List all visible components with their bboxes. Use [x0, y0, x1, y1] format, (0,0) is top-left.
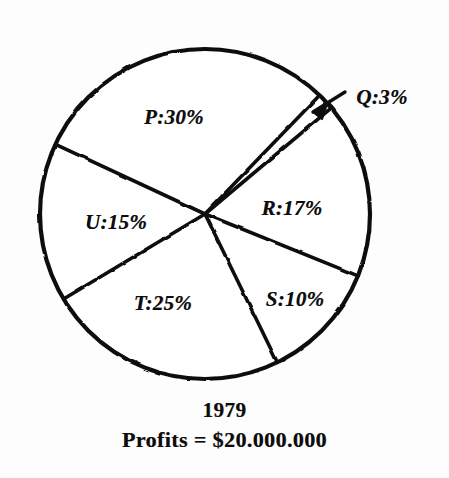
slice-label-r: R:17% [262, 196, 323, 221]
slice-label-t: T:25% [134, 291, 192, 316]
slice-label-u: U:15% [85, 210, 147, 235]
slice-label-q: Q:3% [356, 85, 407, 110]
pie-chart-figure: P:30% Q:3% R:17% S:10% T:25% U:15% 1979 … [0, 0, 449, 478]
slice-label-p: P:30% [144, 105, 204, 130]
slice-label-s: S:10% [266, 287, 325, 312]
chart-caption-profits: Profits = $20.000.000 [0, 427, 449, 453]
chart-caption-year: 1979 [0, 398, 449, 423]
